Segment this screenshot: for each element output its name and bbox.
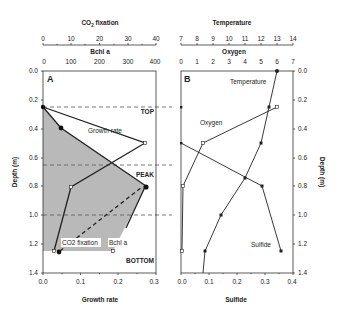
co2-axis: 0 10 20 30 40	[41, 35, 160, 45]
svg-text:30: 30	[124, 35, 132, 42]
panel-b-frame	[181, 71, 293, 273]
panel-a: CO2 fixation 0 10 20 30 40 Bchl a 0 100 …	[11, 19, 172, 303]
growth-axis-title: Growth rate	[82, 296, 119, 303]
oxygen-axis: 0 1 2 3 4 5 6 7	[179, 58, 295, 65]
svg-text:0.4: 0.4	[29, 125, 38, 132]
svg-text:0.2: 0.2	[298, 96, 307, 103]
sulfide-axis-title: Sulfide	[225, 296, 247, 303]
sulfide-annotation: Sulfide	[251, 241, 271, 248]
temperature-annotation: Temperature	[230, 78, 267, 86]
svg-text:0: 0	[41, 35, 45, 42]
svg-text:300: 300	[123, 58, 134, 65]
svg-text:0.0: 0.0	[298, 67, 307, 74]
svg-text:2: 2	[211, 58, 215, 65]
sulfide-axis: 0.0 0.1 0.2 0.3 0.4 Sulfide	[177, 273, 296, 303]
panel-b-markers	[180, 69, 283, 253]
svg-text:0.6: 0.6	[298, 154, 307, 161]
bchl-annotation: Bchl a	[109, 239, 127, 246]
growth-axis: 0.0 0.1 0.2 0.3 Growth rate	[38, 273, 158, 303]
bchl-axis: 0 100 200 300 400	[42, 58, 161, 65]
oxygen-annotation: Oxygen	[200, 119, 223, 127]
svg-text:0.4: 0.4	[298, 125, 307, 132]
svg-text:1.4: 1.4	[29, 269, 38, 276]
svg-text:0.1: 0.1	[76, 278, 85, 285]
growth-rate-annotation: Growth rate	[88, 127, 122, 134]
svg-text:0.0: 0.0	[177, 278, 186, 285]
svg-text:14: 14	[289, 35, 297, 42]
svg-text:0.8: 0.8	[29, 182, 38, 189]
svg-text:0: 0	[42, 58, 46, 65]
svg-text:1.0: 1.0	[29, 211, 38, 218]
figure: CO2 fixation 0 10 20 30 40 Bchl a 0 100 …	[0, 0, 337, 320]
svg-text:13: 13	[273, 35, 281, 42]
depth-axis-left: 0.0 0.2 0.4 0.6 0.8 1.0 1.2 1.4 Depth (m…	[11, 67, 43, 276]
temperature-axis-title: Temperature	[213, 19, 252, 27]
depth-axis-right: 0.0 0.2 0.4 0.6 0.8 1.0 1.2 1.4 Depth (m…	[293, 67, 326, 276]
svg-text:11: 11	[242, 35, 249, 42]
svg-text:3: 3	[227, 58, 231, 65]
depth-label-right: Depth (m)	[318, 157, 326, 187]
svg-text:0.2: 0.2	[232, 278, 241, 285]
panel-a-label: A	[47, 74, 54, 84]
svg-text:200: 200	[94, 58, 105, 65]
svg-text:0.4: 0.4	[287, 278, 296, 285]
svg-text:1.0: 1.0	[298, 211, 307, 218]
panel-b-label: B	[184, 74, 191, 84]
svg-text:0.2: 0.2	[113, 278, 122, 285]
svg-text:0.8: 0.8	[298, 182, 307, 189]
oxygen-axis-title: Oxygen	[222, 48, 246, 56]
oxygen-line	[182, 107, 277, 251]
svg-text:8: 8	[195, 35, 199, 42]
svg-text:7: 7	[291, 58, 295, 65]
zone-top-label: TOP	[141, 108, 155, 115]
svg-text:0.6: 0.6	[29, 154, 38, 161]
svg-text:0.3: 0.3	[149, 278, 158, 285]
svg-text:400: 400	[150, 58, 161, 65]
co2-annotation: CO2 fixation	[62, 239, 98, 246]
panel-b: Temperature 7 8 9 10 11 12 13 14 Oxygen …	[177, 19, 326, 303]
sulfide-line	[181, 143, 281, 251]
svg-text:9: 9	[211, 35, 215, 42]
svg-text:1.2: 1.2	[298, 240, 307, 247]
svg-text:0: 0	[179, 58, 183, 65]
svg-text:40: 40	[152, 35, 160, 42]
temperature-axis: 7 8 9 10 11 12 13 14	[179, 35, 297, 45]
svg-text:7: 7	[179, 35, 183, 42]
svg-text:1.4: 1.4	[298, 269, 307, 276]
co2-axis-title: CO2 fixation	[81, 19, 118, 28]
svg-text:10: 10	[225, 35, 233, 42]
svg-text:6: 6	[275, 58, 279, 65]
svg-text:12: 12	[257, 35, 265, 42]
svg-text:4: 4	[243, 58, 247, 65]
svg-text:0.0: 0.0	[29, 67, 38, 74]
svg-text:0.1: 0.1	[204, 278, 213, 285]
svg-text:0.0: 0.0	[38, 278, 47, 285]
svg-text:20: 20	[96, 35, 104, 42]
svg-text:1.2: 1.2	[29, 240, 38, 247]
zone-peak-label: PEAK	[136, 171, 154, 178]
svg-text:1: 1	[195, 58, 199, 65]
svg-text:0.2: 0.2	[29, 96, 38, 103]
svg-text:5: 5	[259, 58, 263, 65]
svg-text:100: 100	[66, 58, 77, 65]
bchl-axis-title: Bchl a	[90, 48, 110, 55]
svg-text:10: 10	[67, 35, 75, 42]
zone-bottom-label: BOTTOM	[126, 257, 154, 264]
svg-text:0.3: 0.3	[260, 278, 269, 285]
depth-label-left: Depth (m)	[11, 157, 19, 187]
